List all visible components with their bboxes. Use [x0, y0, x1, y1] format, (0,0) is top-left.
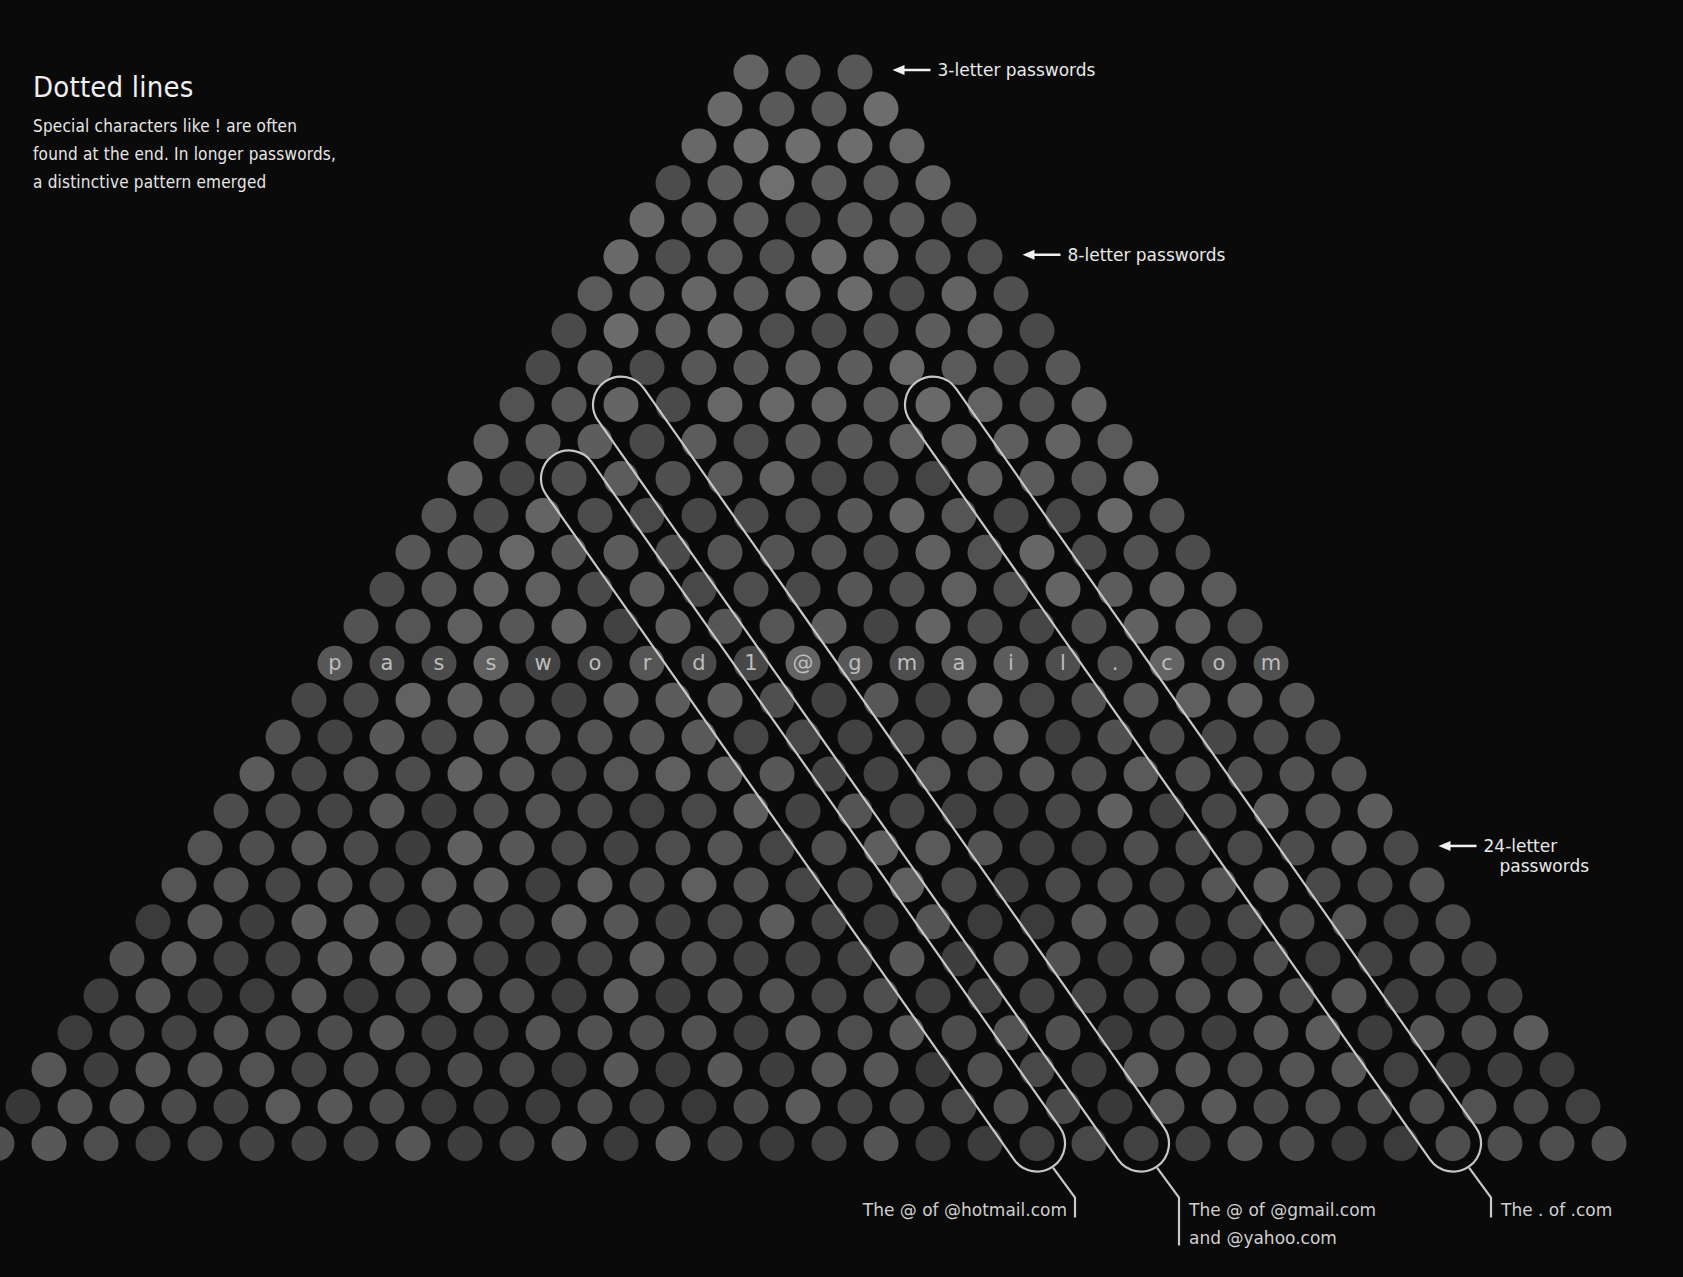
position-dot	[1306, 941, 1341, 976]
position-dot	[370, 572, 405, 607]
position-dot	[864, 313, 899, 348]
position-dot	[656, 165, 691, 200]
position-dot	[370, 941, 405, 976]
position-dot	[786, 572, 821, 607]
position-dot	[838, 55, 873, 90]
position-dot	[1098, 1015, 1133, 1050]
position-dot	[734, 276, 769, 311]
position-dot	[500, 609, 535, 644]
position-dot	[916, 830, 951, 865]
position-dot	[994, 1015, 1029, 1050]
position-dot	[812, 1052, 847, 1087]
position-dot	[786, 941, 821, 976]
position-dot	[942, 720, 977, 755]
position-dot	[864, 1052, 899, 1087]
password-character: @	[793, 651, 814, 675]
position-dot	[630, 1015, 665, 1050]
position-dot	[1124, 683, 1159, 718]
position-dot	[812, 535, 847, 570]
position-dot	[682, 1089, 717, 1124]
position-dot	[292, 757, 327, 792]
position-dot	[864, 904, 899, 939]
position-dot	[396, 904, 431, 939]
position-dot	[812, 683, 847, 718]
position-dot	[500, 387, 535, 422]
position-dot	[578, 941, 613, 976]
position-dot	[630, 202, 665, 237]
password-character: g	[848, 651, 861, 675]
position-dot	[1202, 720, 1237, 755]
position-dot	[214, 941, 249, 976]
position-dot	[1462, 941, 1497, 976]
password-character: s	[434, 651, 445, 675]
position-dot	[1410, 1015, 1445, 1050]
position-dot	[682, 276, 717, 311]
position-dot	[422, 720, 457, 755]
position-dot	[1306, 1089, 1341, 1124]
position-dot	[968, 757, 1003, 792]
position-dot	[994, 1089, 1029, 1124]
position-dot	[162, 1089, 197, 1124]
position-dot	[838, 424, 873, 459]
position-dot	[838, 1015, 873, 1050]
position-dot	[1176, 978, 1211, 1013]
position-dot	[630, 941, 665, 976]
position-dot	[1306, 1015, 1341, 1050]
position-dot	[1098, 720, 1133, 755]
position-dot	[1332, 830, 1367, 865]
position-dot	[1228, 1126, 1263, 1161]
position-dot	[1072, 461, 1107, 496]
position-dot	[682, 794, 717, 829]
position-dot	[552, 1126, 587, 1161]
position-dot	[916, 313, 951, 348]
password-character: w	[534, 651, 551, 675]
position-dot	[890, 867, 925, 902]
position-dot	[812, 757, 847, 792]
position-dot	[422, 941, 457, 976]
position-dot	[1566, 1089, 1601, 1124]
position-dot	[1176, 683, 1211, 718]
position-dot	[838, 350, 873, 385]
position-dot	[1072, 757, 1107, 792]
position-dot	[500, 683, 535, 718]
position-dot	[578, 720, 613, 755]
position-dot	[344, 904, 379, 939]
position-dot	[578, 867, 613, 902]
position-dot	[526, 720, 561, 755]
position-dot	[812, 165, 847, 200]
position-dot	[136, 904, 171, 939]
position-dot	[526, 867, 561, 902]
position-dot	[994, 350, 1029, 385]
position-dot	[552, 904, 587, 939]
position-dot	[838, 794, 873, 829]
position-dot	[1228, 1052, 1263, 1087]
position-dot	[396, 609, 431, 644]
position-dot	[760, 757, 795, 792]
position-dot	[942, 276, 977, 311]
position-dot	[1384, 830, 1419, 865]
position-dot	[734, 498, 769, 533]
position-dot	[656, 830, 691, 865]
position-dot	[890, 424, 925, 459]
position-dot	[1358, 867, 1393, 902]
position-dot	[812, 904, 847, 939]
position-dot	[942, 1015, 977, 1050]
position-dot	[604, 461, 639, 496]
position-dot	[526, 572, 561, 607]
position-dot	[916, 535, 951, 570]
position-dot	[1280, 904, 1315, 939]
position-dot	[1514, 1015, 1549, 1050]
position-dot	[1176, 757, 1211, 792]
position-dot	[708, 609, 743, 644]
position-dot	[786, 128, 821, 163]
position-dot	[708, 535, 743, 570]
position-dot	[916, 387, 951, 422]
position-dot	[448, 904, 483, 939]
position-dot	[760, 535, 795, 570]
position-dot	[734, 1015, 769, 1050]
position-dot	[1306, 867, 1341, 902]
position-dot	[604, 904, 639, 939]
position-dot	[1020, 978, 1055, 1013]
position-dot	[760, 91, 795, 126]
position-dot	[500, 904, 535, 939]
